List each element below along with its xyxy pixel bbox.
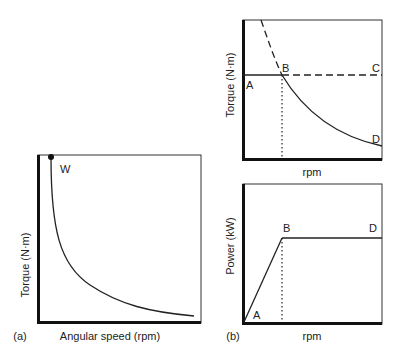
point-w-label: W [60, 163, 71, 175]
panel-a-torque-curve [51, 157, 194, 316]
panel-b-top: A B C D Torque (N·m) rpm [224, 20, 382, 178]
panel-a-x-label: Angular speed (rpm) [60, 330, 160, 342]
figure: W Torque (N·m) Angular speed (rpm) (a) A… [0, 0, 401, 360]
power-ramp-a-b [244, 238, 282, 322]
point-w-marker [48, 154, 54, 160]
panel-b-top-x-label: rpm [303, 166, 322, 178]
point-d-label-bottom: D [369, 222, 377, 234]
panel-b-top-frame [243, 20, 382, 160]
panel-a-tag: (a) [13, 330, 26, 342]
torque-dashed-hyperbola [261, 20, 282, 75]
panel-a-frame [38, 155, 201, 323]
panel-b-top-y-label: Torque (N·m) [224, 53, 236, 118]
panel-a-y-label: Torque (N·m) [19, 233, 31, 298]
panel-a: W Torque (N·m) Angular speed (rpm) (a) [13, 154, 201, 342]
torque-curve-b-d [282, 75, 382, 146]
panel-b-bottom-frame [243, 184, 382, 324]
point-d-label-top: D [372, 133, 380, 145]
panel-b-bottom-y-label: Power (kW) [224, 217, 236, 274]
point-c-label: C [372, 62, 380, 74]
panel-b-bottom: A B D Power (kW) rpm (b) [224, 184, 382, 342]
point-b-label-bottom: B [283, 222, 290, 234]
point-a-label-bottom: A [253, 309, 261, 321]
panel-b-tag: (b) [226, 330, 239, 342]
point-a-label-top: A [246, 79, 254, 91]
panel-b-bottom-x-label: rpm [303, 330, 322, 342]
point-b-label-top: B [282, 62, 289, 74]
